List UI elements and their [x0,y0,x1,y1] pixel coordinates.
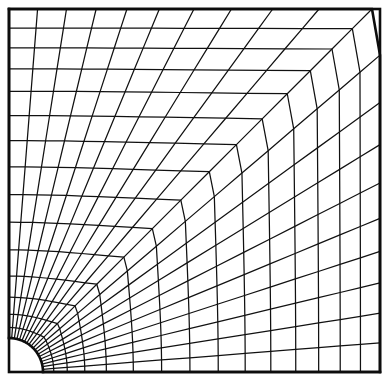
mesh-figure [0,0,390,385]
mesh-canvas [0,0,390,385]
